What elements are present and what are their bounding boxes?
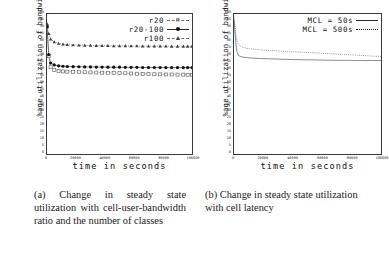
series-marker bbox=[53, 69, 56, 72]
y-tick-label: 75 bbox=[40, 46, 44, 50]
series-marker bbox=[61, 42, 64, 45]
series-marker bbox=[135, 44, 138, 47]
chart-a: %age utilization of bandwidth 0510152025… bbox=[14, 0, 197, 178]
x-tick-label: 40000 bbox=[99, 156, 110, 160]
series-marker bbox=[129, 44, 132, 47]
y-tick-label: 65 bbox=[40, 60, 44, 64]
series-marker bbox=[153, 73, 156, 76]
x-tick-label: 80000 bbox=[347, 156, 358, 160]
series-marker bbox=[89, 65, 92, 68]
series-marker bbox=[130, 72, 133, 75]
series-marker bbox=[95, 44, 98, 47]
x-tick-label: 60000 bbox=[317, 156, 328, 160]
y-tick-label: 25 bbox=[227, 116, 231, 120]
series-marker bbox=[158, 66, 161, 69]
series-marker bbox=[186, 73, 189, 76]
series-marker bbox=[61, 70, 64, 73]
legend-item-r100: r100 bbox=[144, 34, 189, 42]
series-marker bbox=[124, 72, 127, 75]
series-marker bbox=[158, 44, 161, 47]
y-tick-label: 90 bbox=[40, 25, 44, 29]
series-marker bbox=[164, 73, 167, 76]
y-tick-label: 70 bbox=[40, 53, 44, 57]
y-tick-label: 5 bbox=[229, 144, 231, 148]
series-marker bbox=[159, 73, 162, 76]
y-tick-label: 95 bbox=[227, 18, 231, 22]
series-marker bbox=[153, 44, 156, 47]
y-tick-label: 30 bbox=[40, 109, 44, 113]
y-tick-label: 20 bbox=[227, 123, 231, 127]
y-tick-label: 60 bbox=[40, 67, 44, 71]
series-marker bbox=[77, 65, 80, 68]
legend-key-r100 bbox=[167, 34, 189, 42]
series-marker bbox=[77, 71, 80, 74]
y-tick-label: 50 bbox=[227, 81, 231, 85]
series-marker bbox=[124, 44, 127, 47]
filled-circle-marker-icon bbox=[176, 27, 180, 31]
series-marker bbox=[106, 71, 109, 74]
legend-label-mcl-500s: MCL = 500s bbox=[303, 25, 354, 34]
series-marker bbox=[47, 32, 50, 35]
series-marker bbox=[57, 69, 60, 72]
series-marker bbox=[71, 65, 74, 68]
figure-panel-b: %age utilization of bandwidth 0510152025… bbox=[199, 0, 385, 178]
chart-b-x-axis-label: time in seconds bbox=[233, 161, 382, 171]
series-marker bbox=[71, 43, 74, 46]
series-marker bbox=[49, 66, 52, 69]
open-square-marker-icon bbox=[176, 18, 179, 21]
series-marker bbox=[153, 66, 156, 69]
series-marker bbox=[66, 70, 69, 73]
y-tick-label: 5 bbox=[42, 144, 44, 148]
series-marker bbox=[89, 71, 92, 74]
y-tick-label: 85 bbox=[40, 32, 44, 36]
series-marker bbox=[170, 73, 173, 76]
y-tick-label: 40 bbox=[40, 95, 44, 99]
chart-a-plot-area: r20 r20-100 r100 bbox=[46, 13, 193, 155]
legend-label-r20-100: r20-100 bbox=[129, 25, 164, 34]
y-tick-label: 100 bbox=[38, 11, 45, 15]
series-marker bbox=[47, 53, 50, 56]
series-marker bbox=[141, 66, 144, 69]
legend-key-mcl-500s bbox=[356, 25, 378, 33]
legend-item-mcl-50s: MCL = 50s bbox=[308, 16, 378, 24]
legend-label-r100: r100 bbox=[144, 34, 164, 43]
y-tick-label: 100 bbox=[225, 11, 232, 15]
series-marker bbox=[57, 64, 60, 67]
y-tick-label: 60 bbox=[227, 67, 231, 71]
series-marker bbox=[112, 44, 115, 47]
y-tick-label: 0 bbox=[42, 151, 44, 155]
y-tick-label: 45 bbox=[40, 88, 44, 92]
series-marker bbox=[176, 45, 179, 48]
y-tick-label: 40 bbox=[227, 95, 231, 99]
legend-key-r20 bbox=[167, 16, 189, 24]
x-tick-label: 80000 bbox=[158, 156, 169, 160]
y-tick-label: 15 bbox=[227, 130, 231, 134]
series-marker bbox=[72, 70, 75, 73]
x-tick-label: 0 bbox=[45, 156, 47, 160]
series-marker bbox=[118, 72, 121, 75]
series-marker bbox=[89, 44, 92, 47]
y-tick-label: 25 bbox=[40, 116, 44, 120]
filled-triangle-marker-icon bbox=[176, 36, 180, 40]
chart-b-plot-area: MCL = 50s MCL = 500s bbox=[233, 13, 382, 155]
x-tick-label: 20000 bbox=[70, 156, 81, 160]
series-marker bbox=[135, 72, 138, 75]
series-marker bbox=[141, 44, 144, 47]
series-marker bbox=[147, 66, 150, 69]
figure-caption-b: (b) Change in steady state utilization w… bbox=[205, 188, 361, 214]
chart-a-x-axis-label: time in seconds bbox=[46, 161, 193, 171]
series-marker bbox=[182, 45, 185, 48]
series-marker bbox=[77, 43, 80, 46]
series-marker bbox=[95, 71, 98, 74]
series-marker bbox=[124, 66, 127, 69]
x-tick-label: 20000 bbox=[257, 156, 268, 160]
y-tick-label: 90 bbox=[227, 25, 231, 29]
y-tick-label: 70 bbox=[227, 53, 231, 57]
series-marker bbox=[190, 66, 192, 69]
series-marker bbox=[53, 63, 56, 66]
y-tick-label: 85 bbox=[227, 32, 231, 36]
figure-caption-a: (a) Change in steady state utilization w… bbox=[34, 188, 186, 228]
series-marker bbox=[112, 71, 115, 74]
y-tick-label: 35 bbox=[40, 102, 44, 106]
series-marker bbox=[170, 45, 173, 48]
